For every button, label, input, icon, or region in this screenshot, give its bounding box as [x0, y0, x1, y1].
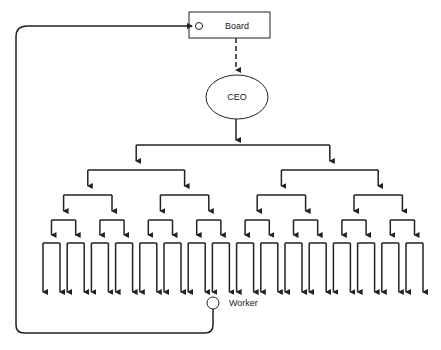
ceo-label: CEO — [227, 92, 247, 102]
hierarchy-tree — [43, 145, 423, 292]
worker-to-board-feedback-line — [16, 26, 213, 333]
worker-label: Worker — [229, 298, 258, 308]
board-label: Board — [225, 21, 249, 31]
ceo-node[interactable]: CEO — [206, 75, 268, 119]
org-chart-diagram: Board CEO Worker — [0, 0, 441, 350]
board-input-port-icon — [196, 23, 203, 30]
board-node[interactable]: Board — [189, 12, 270, 38]
worker-node[interactable]: Worker — [207, 297, 258, 309]
worker-circle-icon — [207, 297, 219, 309]
